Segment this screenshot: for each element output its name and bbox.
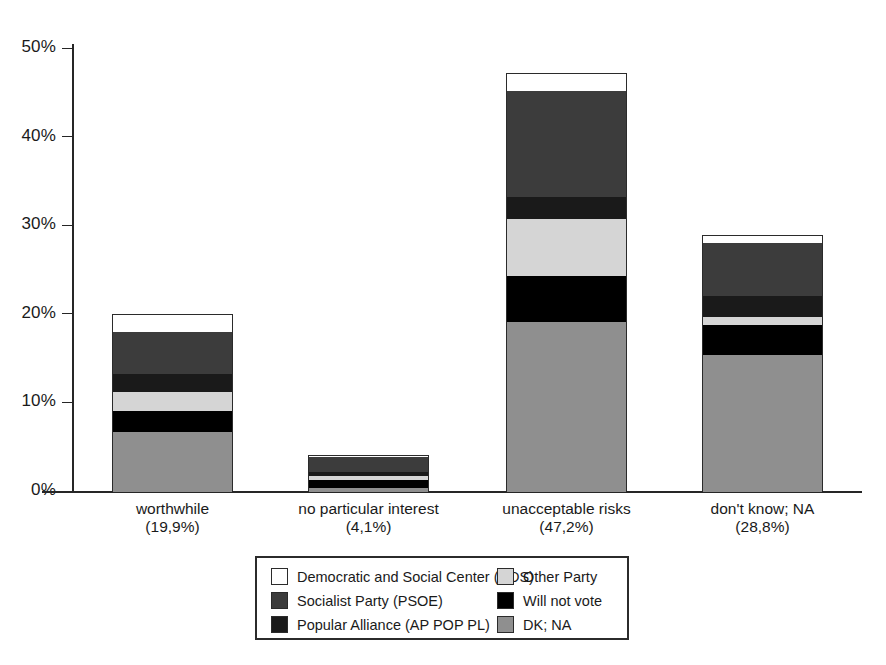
category-name: unacceptable risks [502,500,630,517]
bar-segment-dk-na [113,432,232,492]
legend-swatch-icon [271,616,288,633]
bar-segment-dk-na [703,355,822,492]
legend-column-2: Other PartyWill not voteDK; NA [497,565,627,638]
bar-segment-other-party [113,392,232,411]
bar-no-particular-interest[interactable] [308,455,429,491]
bar-segment-dk-na [309,488,428,492]
legend-swatch-icon [497,616,514,633]
bar-segment-popular-alliance-ap-pop-pl- [703,296,822,316]
category-percent: (28,8%) [643,518,883,536]
legend-label: Will not vote [523,593,602,609]
category-name: don't know; NA [711,500,815,517]
bars-layer [0,0,886,491]
legend-item-democratic-and-social-center-cds-[interactable]: Democratic and Social Center (CDS) [271,565,497,588]
legend-column-1: Democratic and Social Center (CDS)Social… [257,565,497,638]
legend-label: Popular Alliance (AP POP PL) [297,617,490,633]
legend-swatch-icon [271,568,288,585]
legend-swatch-icon [271,592,288,609]
legend-swatch-icon [497,568,514,585]
bar-segment-socialist-party-psoe- [309,457,428,471]
legend-swatch-icon [497,592,514,609]
legend-item-popular-alliance-ap-pop-pl-[interactable]: Popular Alliance (AP POP PL) [271,613,497,636]
bar-segment-dk-na [507,322,626,492]
legend-label: Other Party [523,569,597,585]
bar-segment-democratic-and-social-center-cds- [703,236,822,243]
bar-segment-socialist-party-psoe- [703,243,822,296]
bar-segment-socialist-party-psoe- [113,332,232,375]
bar-segment-other-party [703,317,822,325]
bar-segment-popular-alliance-ap-pop-pl- [113,374,232,392]
bar-worthwhile[interactable] [112,314,233,491]
legend-label: Socialist Party (PSOE) [297,593,443,609]
stacked-bar-chart: 0%10%20%30%40%50% worthwhile(19,9%)no pa… [0,0,886,665]
bar-segment-will-not-vote [507,276,626,322]
legend: Democratic and Social Center (CDS)Social… [255,556,629,640]
bar-segment-will-not-vote [113,411,232,431]
category-name: no particular interest [298,500,438,517]
legend-label: DK; NA [523,617,571,633]
bar-segment-popular-alliance-ap-pop-pl- [507,197,626,219]
legend-item-socialist-party-psoe-[interactable]: Socialist Party (PSOE) [271,589,497,612]
category-label: don't know; NA(28,8%) [643,500,883,536]
bar-segment-socialist-party-psoe- [507,91,626,197]
legend-item-dk-na[interactable]: DK; NA [497,613,627,636]
bar-segment-other-party [507,219,626,276]
legend-item-will-not-vote[interactable]: Will not vote [497,589,627,612]
bar-segment-democratic-and-social-center-cds- [113,315,232,332]
bar-don-t-know-na[interactable] [702,235,823,491]
bar-segment-will-not-vote [703,325,822,355]
bar-segment-democratic-and-social-center-cds- [507,74,626,91]
legend-item-other-party[interactable]: Other Party [497,565,627,588]
category-name: worthwhile [136,500,209,517]
bar-segment-will-not-vote [309,480,428,488]
bar-unacceptable-risks[interactable] [506,73,627,491]
legend-columns: Democratic and Social Center (CDS)Social… [257,565,627,638]
